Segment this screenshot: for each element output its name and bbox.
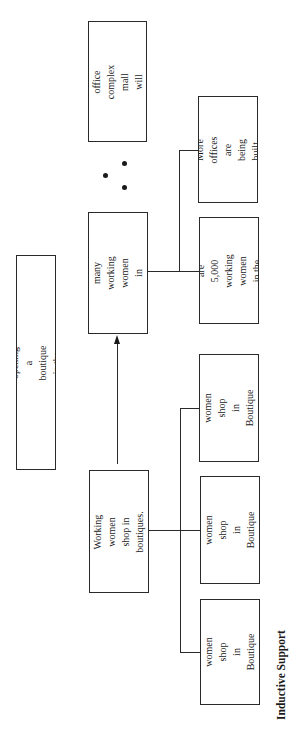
premise-attract-box: A boutique in the office complex mall wi… xyxy=(88,21,147,142)
support-5000-text: There are 5,000 working women in the com… xyxy=(199,252,259,289)
support-5000-box: There are 5,000 working women in the com… xyxy=(199,217,259,324)
premise-attract-text: A boutique in the office complex mall wi… xyxy=(88,64,147,99)
support-offices-box: More offices are being built. xyxy=(198,96,258,203)
diagram-caption: Inductive Support xyxy=(275,630,287,720)
connector-line xyxy=(179,150,198,151)
connector-line xyxy=(179,150,180,272)
connector-line xyxy=(180,408,199,409)
main-claim-box: We should consider opening a boutique in… xyxy=(16,255,56,470)
boutique-b-text: Working women shop in Boutique B. xyxy=(200,512,260,549)
generalization-box: Working women shop in boutiques. xyxy=(89,470,149,593)
boutique-a-box: Working women shop in Boutique A. xyxy=(200,599,260,705)
support-offices-text: More offices are being built. xyxy=(198,135,258,164)
arrow-shaft xyxy=(117,342,118,464)
arrow-up-icon xyxy=(114,335,120,344)
connector-line xyxy=(180,652,200,653)
premise-many-text: There will be many working women in the … xyxy=(88,255,148,292)
boutique-b-box: Working women shop in Boutique B. xyxy=(200,476,260,584)
generalization-text: Working women shop in boutiques. xyxy=(91,511,147,552)
boutique-c-text: Working women shop in Boutique C. xyxy=(199,390,259,427)
inductive-support-diagram: We should consider opening a boutique in… xyxy=(0,0,298,738)
boutique-c-box: Working women shop in Boutique C. xyxy=(199,354,259,462)
connector-line xyxy=(148,271,199,272)
connector-line xyxy=(149,530,200,531)
premise-many-box: There will be many working women in the … xyxy=(88,212,148,334)
main-claim-text: We should consider opening a boutique in… xyxy=(16,345,56,380)
boutique-a-text: Working women shop in Boutique A. xyxy=(200,634,260,671)
